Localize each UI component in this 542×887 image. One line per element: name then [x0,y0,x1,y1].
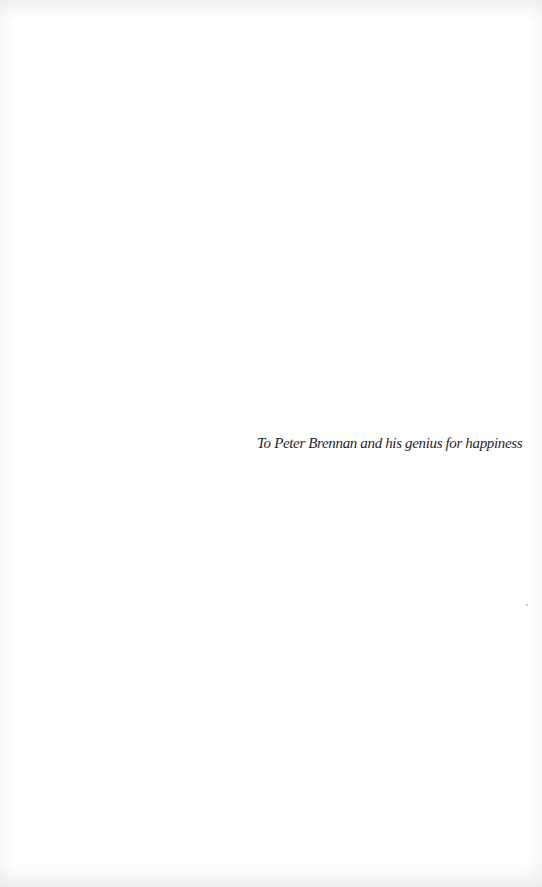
book-page: To Peter Brennan and his genius for happ… [0,0,542,887]
paper-speck [526,604,528,606]
dedication-text: To Peter Brennan and his genius for happ… [257,434,507,452]
